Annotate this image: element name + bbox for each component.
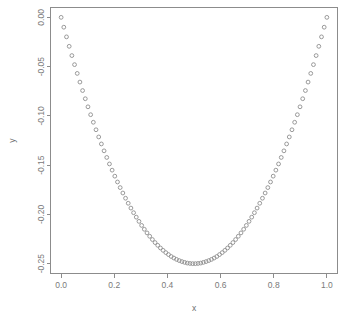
data-point: [301, 97, 305, 101]
data-point: [78, 80, 82, 84]
data-point: [91, 120, 95, 124]
data-point: [99, 142, 103, 146]
data-point: [70, 54, 74, 58]
data-point: [132, 211, 136, 215]
data-point: [279, 156, 283, 160]
data-point: [250, 215, 254, 219]
y-tick-label: -0.25: [37, 254, 47, 274]
y-axis-ticks: [47, 17, 51, 263]
data-point: [142, 227, 146, 231]
data-point: [306, 80, 310, 84]
data-point: [73, 63, 77, 67]
data-point: [261, 196, 265, 200]
data-point: [89, 113, 93, 117]
data-point: [97, 135, 101, 139]
data-point: [126, 201, 130, 205]
data-point: [129, 206, 133, 210]
plot-frame-group: [51, 8, 338, 274]
data-point: [244, 224, 248, 228]
data-point: [105, 156, 109, 160]
data-point: [317, 44, 321, 48]
data-point: [314, 54, 318, 58]
data-point: [304, 89, 308, 93]
y-tick-label: 0.00: [37, 9, 47, 26]
data-point: [309, 72, 313, 76]
data-point: [285, 142, 289, 146]
data-point: [287, 135, 291, 139]
data-point: [65, 35, 69, 39]
data-point: [110, 168, 114, 172]
x-tick-label: 0.2: [108, 280, 120, 290]
data-point: [269, 180, 273, 184]
data-point: [67, 44, 71, 48]
data-point: [108, 162, 112, 166]
data-point: [234, 238, 238, 242]
x-tick-label: 0.0: [55, 280, 67, 290]
scatter-plot-figure: 0.00.20.40.60.81.0 0.00-0.05-0.10-0.15-0…: [0, 0, 350, 321]
data-point: [134, 215, 138, 219]
x-axis-title: x: [192, 303, 197, 313]
data-point: [124, 196, 128, 200]
data-point: [271, 174, 275, 178]
plot-frame: [51, 8, 338, 274]
data-point: [113, 174, 117, 178]
data-point: [277, 162, 281, 166]
x-axis-tick-labels: 0.00.20.40.60.81.0: [55, 280, 333, 290]
y-tick-label: -0.05: [37, 57, 47, 77]
data-point: [325, 15, 329, 19]
data-point: [320, 35, 324, 39]
data-point: [312, 63, 316, 67]
data-point: [83, 97, 87, 101]
data-point-series: [59, 15, 329, 265]
data-point: [293, 120, 297, 124]
x-tick-label: 0.8: [268, 280, 280, 290]
data-point: [62, 25, 66, 29]
data-point: [290, 128, 294, 132]
data-point: [274, 168, 278, 172]
data-point: [239, 231, 243, 235]
x-tick-label: 0.4: [162, 280, 174, 290]
y-tick-label: -0.20: [37, 204, 47, 224]
data-point: [258, 201, 262, 205]
data-point: [298, 105, 302, 109]
data-point: [102, 149, 106, 153]
data-point: [118, 186, 122, 190]
data-point: [242, 227, 246, 231]
data-point: [263, 191, 267, 195]
y-axis-title: y: [7, 138, 17, 143]
data-point: [253, 211, 257, 215]
data-point: [59, 15, 63, 19]
x-tick-label: 1.0: [321, 280, 333, 290]
data-point: [247, 219, 251, 223]
y-tick-label: -0.10: [37, 106, 47, 126]
data-point: [145, 231, 149, 235]
data-point: [75, 72, 79, 76]
data-point: [137, 219, 141, 223]
data-point: [255, 206, 259, 210]
data-point: [322, 25, 326, 29]
y-tick-label: -0.15: [37, 155, 47, 175]
data-point: [282, 149, 286, 153]
data-point: [81, 89, 85, 93]
data-point: [86, 105, 90, 109]
x-tick-label: 0.6: [215, 280, 227, 290]
y-axis-tick-labels: 0.00-0.05-0.10-0.15-0.20-0.25: [37, 9, 47, 274]
data-point: [140, 224, 144, 228]
data-point: [116, 180, 120, 184]
data-point: [94, 128, 98, 132]
data-point: [266, 186, 270, 190]
data-point: [295, 113, 299, 117]
chart-canvas: 0.00.20.40.60.81.0 0.00-0.05-0.10-0.15-0…: [0, 0, 350, 321]
data-point: [121, 191, 125, 195]
x-axis-ticks: [61, 274, 327, 278]
data-point: [236, 234, 240, 238]
